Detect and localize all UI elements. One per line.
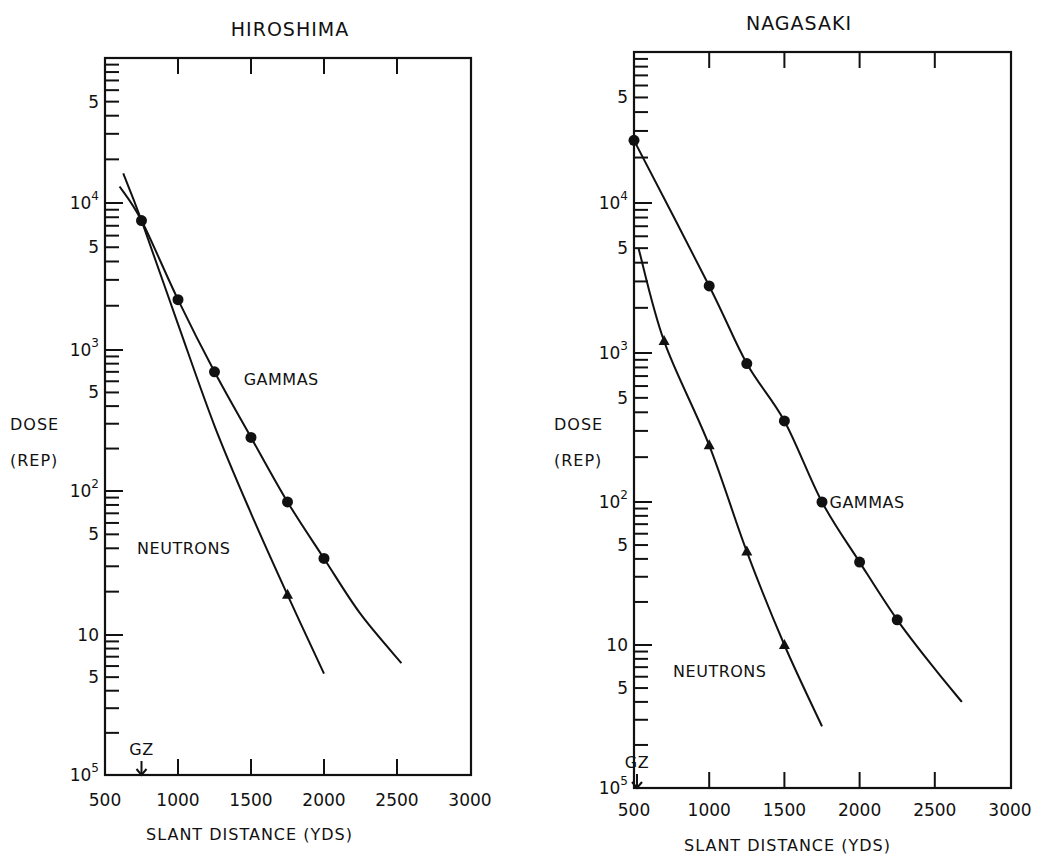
x-tick-label: 1500	[229, 790, 272, 810]
y-tick-label: 5	[88, 524, 99, 544]
series-neutrons	[639, 248, 822, 726]
y-tick-label: 105	[599, 774, 628, 798]
triangle-marker-icon	[282, 589, 293, 599]
circle-marker-icon	[246, 432, 257, 443]
series-label-gammas: GAMMAS	[244, 370, 319, 389]
circle-marker-icon	[319, 553, 330, 564]
hiroshima-plot: HIROSHIMA1055104510351025105500100015002…	[0, 0, 529, 865]
x-tick-label: 2000	[838, 800, 881, 820]
y-tick-label: 103	[70, 336, 99, 360]
circle-marker-icon	[704, 280, 715, 291]
y-tick-label: 102	[599, 488, 628, 512]
x-tick-label: 1500	[763, 800, 806, 820]
series-gammas	[120, 186, 402, 663]
series-curve	[634, 140, 962, 702]
x-tick-label: 500	[89, 790, 121, 810]
series-neutrons	[123, 173, 324, 673]
y-axis-label: DOSE	[10, 415, 59, 434]
series-gammas	[629, 135, 962, 702]
y-tick-label: 5	[88, 92, 99, 112]
triangle-marker-icon	[741, 546, 752, 556]
x-tick-label: 2000	[302, 790, 345, 810]
x-axis-label: SLANT DISTANCE (YDS)	[146, 825, 353, 844]
y-tick-label: 5	[617, 87, 628, 107]
x-tick-label: 3000	[448, 790, 491, 810]
y-axis-ticks	[634, 59, 652, 745]
circle-marker-icon	[282, 496, 293, 507]
hiroshima-chart: HIROSHIMA1055104510351025105500100015002…	[0, 0, 529, 865]
series-label-neutrons: NEUTRONS	[673, 662, 766, 681]
circle-marker-icon	[173, 294, 184, 305]
circle-marker-icon	[629, 135, 640, 146]
y-tick-label: 10	[77, 625, 99, 645]
y-tick-label: 104	[70, 189, 99, 213]
series-curve	[639, 248, 822, 726]
nagasaki-plot: NAGASAKI10551045103510251055001000150020…	[529, 0, 1058, 865]
x-tick-label: 1000	[688, 800, 731, 820]
circle-marker-icon	[779, 415, 790, 426]
y-tick-label: 103	[599, 339, 628, 363]
gz-label: GZ	[129, 740, 153, 759]
gz-label: GZ	[625, 753, 649, 772]
circle-marker-icon	[209, 366, 220, 377]
y-tick-label: 5	[88, 237, 99, 257]
y-axis-unit: (REP)	[10, 451, 58, 470]
y-axis-label: DOSE	[554, 415, 603, 434]
y-axis-ticks	[105, 65, 123, 733]
x-tick-label: 2500	[913, 800, 956, 820]
y-tick-label: 5	[617, 238, 628, 258]
triangle-marker-icon	[659, 335, 670, 345]
y-tick-label: 5	[617, 678, 628, 698]
y-tick-label: 102	[70, 477, 99, 501]
x-tick-label: 1000	[156, 790, 199, 810]
chart-title: NAGASAKI	[746, 12, 852, 34]
y-tick-label: 5	[88, 382, 99, 402]
y-tick-label: 105	[70, 761, 99, 785]
y-tick-label: 5	[88, 667, 99, 687]
x-tick-label: 500	[618, 800, 650, 820]
series-curve	[123, 173, 324, 673]
circle-marker-icon	[741, 358, 752, 369]
circle-marker-icon	[892, 614, 903, 625]
circle-marker-icon	[817, 497, 828, 508]
chart-title: HIROSHIMA	[231, 18, 349, 40]
y-tick-label: 10	[606, 635, 628, 655]
nagasaki-chart: NAGASAKI10551045103510251055001000150020…	[529, 0, 1058, 865]
y-tick-label: 5	[617, 535, 628, 555]
down-arrow-icon	[137, 761, 147, 775]
x-tick-label: 2500	[375, 790, 418, 810]
plot-frame	[105, 58, 471, 775]
y-tick-label: 104	[599, 189, 628, 213]
circle-marker-icon	[854, 557, 865, 568]
triangle-marker-icon	[704, 439, 715, 449]
series-curve	[120, 186, 402, 663]
y-axis-unit: (REP)	[554, 451, 602, 470]
triangle-marker-icon	[779, 639, 790, 649]
x-tick-label: 3000	[988, 800, 1031, 820]
series-label-neutrons: NEUTRONS	[137, 539, 230, 558]
x-axis-label: SLANT DISTANCE (YDS)	[684, 836, 891, 855]
series-label-gammas: GAMMAS	[830, 493, 905, 512]
y-tick-label: 5	[617, 388, 628, 408]
